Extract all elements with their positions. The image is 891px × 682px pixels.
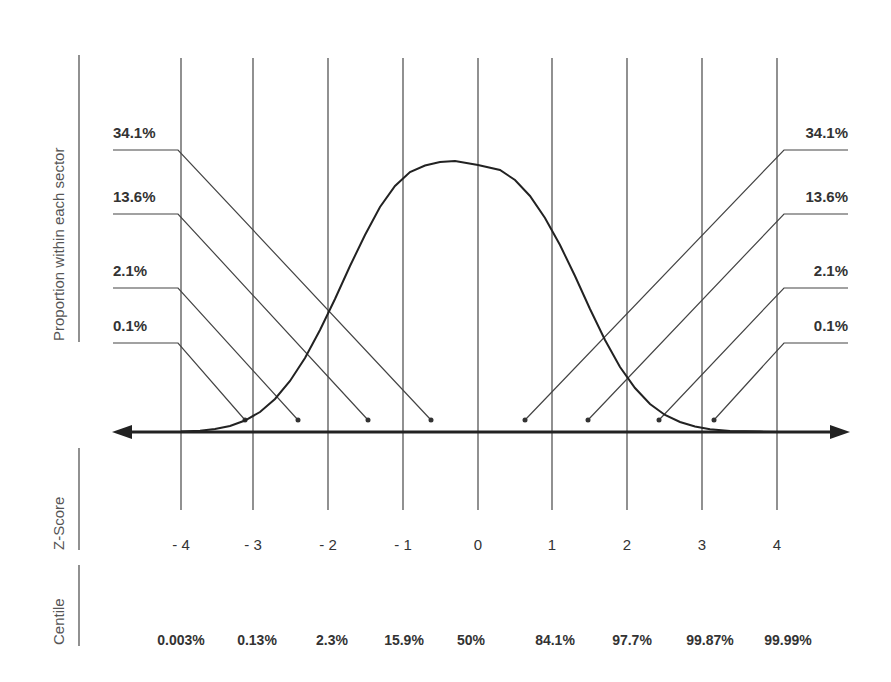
proportion-axis-label: Proportion within each sector	[50, 148, 67, 341]
zscore-tick: - 3	[233, 536, 273, 553]
centile-value: 99.87%	[670, 632, 750, 648]
left-pct-2: 2.1%	[113, 262, 147, 279]
bell-curve	[181, 161, 777, 432]
zscore-tick: 4	[757, 536, 797, 553]
left-pct-13: 13.6%	[113, 188, 156, 205]
centile-value: 50%	[431, 632, 511, 648]
zscore-tick: - 1	[383, 536, 423, 553]
zscore-tick: 0	[458, 536, 498, 553]
right-arrow-icon	[830, 425, 850, 439]
centile-value: 2.3%	[292, 632, 372, 648]
right-leader-lines	[525, 150, 848, 420]
left-arrow-icon	[112, 425, 132, 439]
zscore-tick: 1	[532, 536, 572, 553]
right-pct-0: 0.1%	[814, 317, 848, 334]
left-leader-lines	[113, 150, 431, 420]
zscore-axis-label: Z-Score	[50, 497, 67, 550]
left-pct-34: 34.1%	[113, 124, 156, 141]
centile-axis-label: Centile	[50, 598, 67, 645]
centile-value: 0.003%	[141, 632, 221, 648]
sector-dots	[243, 418, 717, 423]
zscore-tick: 3	[682, 536, 722, 553]
right-pct-13: 13.6%	[805, 188, 848, 205]
left-pct-0: 0.1%	[113, 317, 147, 334]
centile-value: 84.1%	[515, 632, 595, 648]
centile-value: 0.13%	[217, 632, 297, 648]
right-pct-2: 2.1%	[814, 262, 848, 279]
centile-value: 99.99%	[748, 632, 828, 648]
centile-value: 97.7%	[592, 632, 672, 648]
zscore-tick: 2	[607, 536, 647, 553]
right-pct-34: 34.1%	[805, 124, 848, 141]
zscore-tick: - 4	[161, 536, 201, 553]
z-gridlines	[181, 58, 777, 510]
zscore-tick: - 2	[308, 536, 348, 553]
normal-distribution-diagram	[0, 0, 891, 682]
